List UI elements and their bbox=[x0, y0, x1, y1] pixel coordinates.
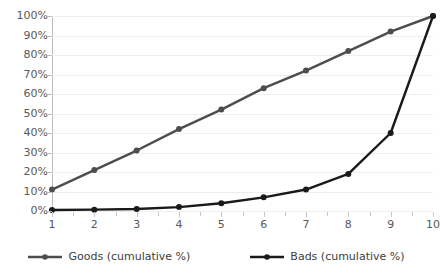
series-data-point bbox=[176, 204, 182, 210]
legend-item-bads: Bads (cumulative %) bbox=[250, 250, 404, 263]
y-axis-tick-label: 70% bbox=[4, 69, 48, 80]
series-data-point bbox=[303, 187, 309, 193]
legend-marker-goods-icon bbox=[28, 252, 62, 262]
y-axis-tick-label: 10% bbox=[4, 186, 48, 197]
series-data-point bbox=[303, 68, 309, 74]
series-data-point bbox=[261, 85, 267, 91]
x-axis-tick-label: 8 bbox=[333, 218, 363, 231]
y-axis-tick-label: 90% bbox=[4, 30, 48, 41]
x-axis-tick-label: 5 bbox=[206, 218, 236, 231]
y-axis-tick-mark bbox=[48, 172, 52, 173]
y-axis-tick-mark bbox=[48, 192, 52, 193]
x-axis-tick-mark bbox=[221, 212, 222, 217]
x-axis-tick-mark bbox=[433, 212, 434, 217]
series-data-point bbox=[91, 167, 97, 173]
chart-legend: Goods (cumulative %) Bads (cumulative %) bbox=[0, 250, 433, 263]
y-axis-tick-label: 80% bbox=[4, 49, 48, 60]
series-data-point bbox=[261, 194, 267, 200]
y-axis-tick-label: 60% bbox=[4, 88, 48, 99]
x-axis-minor-tick-mark bbox=[200, 212, 201, 216]
series-line bbox=[52, 16, 433, 190]
x-axis-minor-tick-mark bbox=[327, 212, 328, 216]
y-axis-tick-mark bbox=[48, 153, 52, 154]
y-axis-tick-label: 50% bbox=[4, 108, 48, 119]
series-lines bbox=[52, 16, 433, 211]
series-data-point bbox=[134, 148, 140, 154]
y-axis-tick-label: 0% bbox=[4, 205, 48, 216]
y-axis-tick-label: 40% bbox=[4, 127, 48, 138]
series-data-point bbox=[430, 13, 436, 19]
x-axis-minor-tick-mark bbox=[243, 212, 244, 216]
x-axis-tick-mark bbox=[306, 212, 307, 217]
plot-area bbox=[52, 16, 433, 211]
x-axis-tick-mark bbox=[52, 212, 53, 217]
y-axis-tick-label: 30% bbox=[4, 147, 48, 158]
y-axis-tick-mark bbox=[48, 133, 52, 134]
legend-marker-bads-icon bbox=[250, 252, 284, 262]
series-data-point bbox=[345, 48, 351, 54]
x-axis-minor-tick-mark bbox=[116, 212, 117, 216]
y-axis-tick-mark bbox=[48, 36, 52, 37]
series-data-point bbox=[176, 126, 182, 132]
series-data-point bbox=[218, 200, 224, 206]
legend-label-bads: Bads (cumulative %) bbox=[290, 250, 404, 263]
x-axis-minor-tick-mark bbox=[370, 212, 371, 216]
y-axis-tick-mark bbox=[48, 114, 52, 115]
legend-label-goods: Goods (cumulative %) bbox=[68, 250, 190, 263]
x-axis-minor-tick-mark bbox=[285, 212, 286, 216]
y-axis-tick-mark bbox=[48, 94, 52, 95]
x-axis-tick-label: 6 bbox=[249, 218, 279, 231]
series-data-point bbox=[218, 107, 224, 113]
x-axis-tick-label: 9 bbox=[376, 218, 406, 231]
y-axis-labels: 100%90%80%70%60%50%40%30%20%10%0% bbox=[0, 0, 48, 230]
series-data-point bbox=[345, 171, 351, 177]
legend-item-goods: Goods (cumulative %) bbox=[28, 250, 190, 263]
x-axis-tick-label: 4 bbox=[164, 218, 194, 231]
x-axis-tick-label: 3 bbox=[122, 218, 152, 231]
x-axis-tick-mark bbox=[137, 212, 138, 217]
y-axis-tick-mark bbox=[48, 55, 52, 56]
x-axis-tick-label: 2 bbox=[79, 218, 109, 231]
x-axis-tick-label: 7 bbox=[291, 218, 321, 231]
y-axis-tick-label: 20% bbox=[4, 166, 48, 177]
series-line bbox=[52, 16, 433, 210]
x-axis-tick-mark bbox=[391, 212, 392, 217]
series-data-point bbox=[388, 130, 394, 136]
series-data-point bbox=[388, 29, 394, 35]
x-axis-tick-mark bbox=[94, 212, 95, 217]
y-axis-tick-mark bbox=[48, 16, 52, 17]
x-axis-minor-tick-mark bbox=[158, 212, 159, 216]
y-axis-tick-label: 100% bbox=[4, 10, 48, 21]
x-axis-tick-label: 10 bbox=[418, 218, 444, 231]
x-axis-tick-mark bbox=[179, 212, 180, 217]
x-axis-tick-mark bbox=[348, 212, 349, 217]
x-axis-minor-tick-mark bbox=[412, 212, 413, 216]
x-axis-tick-mark bbox=[264, 212, 265, 217]
y-axis-tick-mark bbox=[48, 211, 52, 212]
y-axis-tick-mark bbox=[48, 75, 52, 76]
x-axis-minor-tick-mark bbox=[73, 212, 74, 216]
x-axis-tick-label: 1 bbox=[37, 218, 67, 231]
